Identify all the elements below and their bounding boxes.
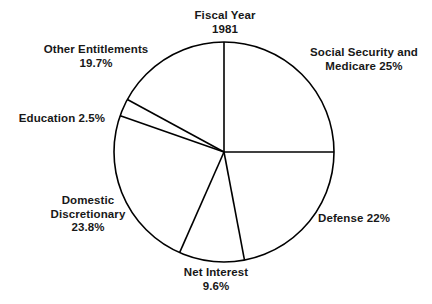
slice-label-net-interest-line1: Net Interest — [184, 266, 248, 278]
slice-label-net-interest: Net Interest9.6% — [157, 266, 275, 293]
pie-chart-figure: Fiscal Year1981 Social Security andMedic… — [0, 0, 432, 304]
slice-label-social-security-line2: Medicare 25% — [325, 60, 402, 72]
slice-label-defense-text: Defense 22% — [318, 212, 390, 224]
slice-label-social-security-and-medicare: Social Security andMedicare 25% — [296, 46, 432, 73]
slice-label-domestic-discretionary: DomesticDiscretionary23.8% — [26, 194, 150, 235]
slice-label-education: Education 2.5% — [0, 112, 124, 126]
slice-label-education-text: Education 2.5% — [19, 112, 105, 124]
slice-label-net-interest-line2: 9.6% — [203, 280, 230, 292]
chart-title-line2: 1981 — [212, 23, 238, 35]
slice-label-other-entitlements-line1: Other Entitlements — [44, 43, 149, 55]
slice-label-domestic-line3: 23.8% — [71, 221, 104, 233]
slice-label-other-entitlements-line2: 19.7% — [79, 57, 112, 69]
chart-title: Fiscal Year1981 — [160, 9, 290, 36]
slice-label-other-entitlements: Other Entitlements19.7% — [22, 43, 170, 70]
slice-label-defense: Defense 22% — [318, 212, 428, 226]
chart-title-line1: Fiscal Year — [195, 9, 256, 21]
slice-label-social-security-line1: Social Security and — [310, 46, 418, 58]
slice-label-domestic-line1: Domestic — [62, 194, 115, 206]
slice-label-domestic-line2: Discretionary — [51, 208, 126, 220]
